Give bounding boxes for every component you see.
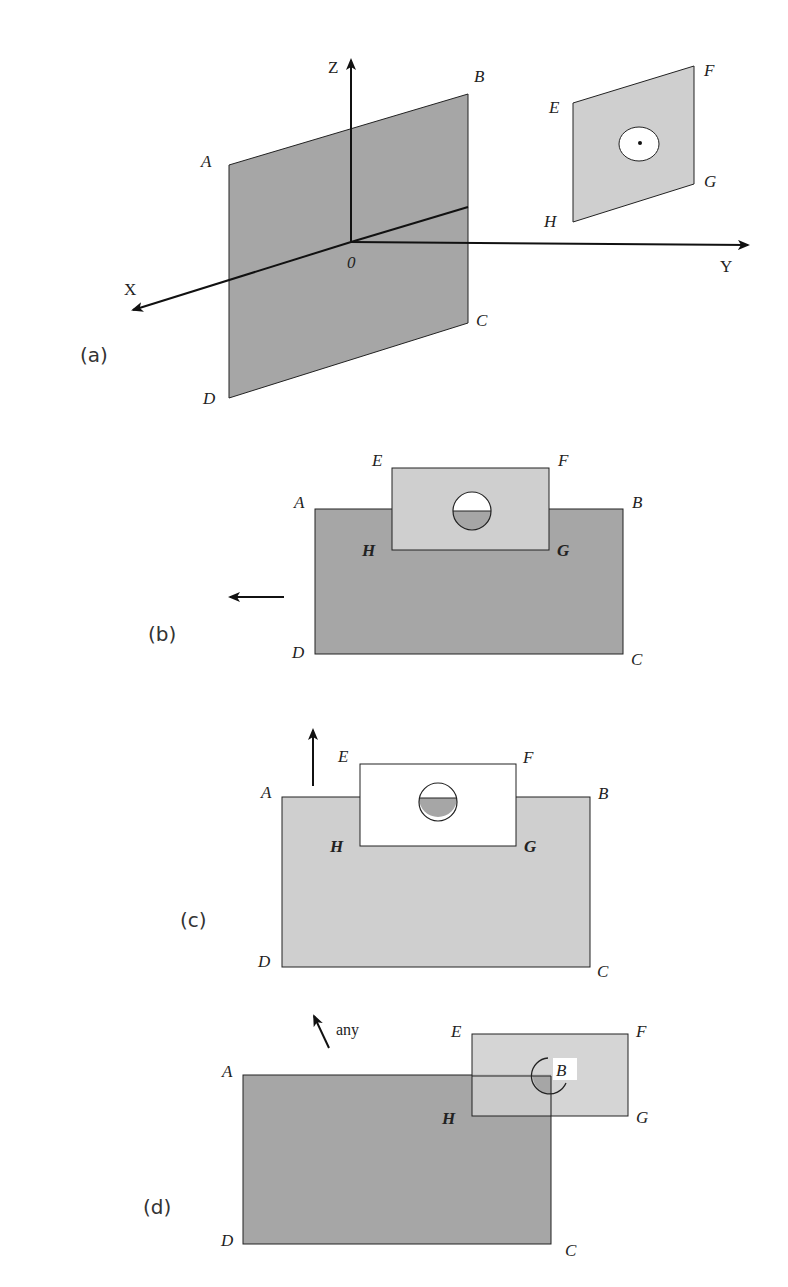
figure-canvas: Z Y X 0 A B C D E F G H (a) A B C D E F … <box>0 0 788 1287</box>
vertex-a: A <box>260 783 272 802</box>
z-axis-label: Z <box>328 58 338 77</box>
arrow-note-any: any <box>336 1021 359 1039</box>
vertex-g: G <box>524 837 537 856</box>
vertex-b: B <box>632 493 643 512</box>
vertex-h: H <box>361 541 376 560</box>
vertex-e: E <box>548 98 560 117</box>
origin-label: 0 <box>347 253 356 272</box>
vertex-b: B <box>474 67 485 86</box>
aperture-center-dot <box>638 141 642 145</box>
vertex-f: F <box>557 451 569 470</box>
vertex-f: F <box>522 748 534 767</box>
vertex-b: B <box>598 784 609 803</box>
y-axis-label: Y <box>720 257 732 276</box>
panel-c: A B C D E F G H (c) <box>180 730 609 981</box>
panel-b: A B C D E F G H (b) <box>148 451 643 669</box>
vertex-a: A <box>221 1062 233 1081</box>
vertex-h: H <box>543 212 558 231</box>
vertex-e: E <box>371 451 383 470</box>
plate-abcd <box>229 94 468 398</box>
vertex-g: G <box>704 172 716 191</box>
panel-d-label: (d) <box>143 1195 171 1219</box>
vertex-a: A <box>293 493 305 512</box>
vertex-d: D <box>257 952 271 971</box>
motion-arrow-any-icon <box>314 1016 329 1048</box>
vertex-f: F <box>703 61 715 80</box>
vertex-e: E <box>450 1022 462 1041</box>
x-axis-label: X <box>124 280 136 299</box>
vertex-h: H <box>441 1109 456 1128</box>
vertex-h: H <box>329 837 344 856</box>
panel-a: Z Y X 0 A B C D E F G H (a) <box>80 58 748 408</box>
panel-d: any B A C D E F G H (d) <box>143 1016 648 1260</box>
vertex-c: C <box>597 962 609 981</box>
vertex-d: D <box>202 389 216 408</box>
vertex-c: C <box>565 1241 577 1260</box>
vertex-f: F <box>635 1022 647 1041</box>
vertex-d: D <box>291 643 305 662</box>
panel-b-label: (b) <box>148 622 176 646</box>
vertex-g: G <box>636 1108 648 1127</box>
vertex-c: C <box>631 650 643 669</box>
corner-marker-b: B <box>556 1061 567 1080</box>
vertex-c: C <box>476 311 488 330</box>
plate-efgh <box>472 1034 628 1116</box>
panel-a-label: (a) <box>80 343 108 367</box>
panel-c-label: (c) <box>180 908 207 932</box>
vertex-a: A <box>200 152 212 171</box>
vertex-e: E <box>337 747 349 766</box>
vertex-d: D <box>220 1231 234 1250</box>
vertex-g: G <box>557 541 570 560</box>
